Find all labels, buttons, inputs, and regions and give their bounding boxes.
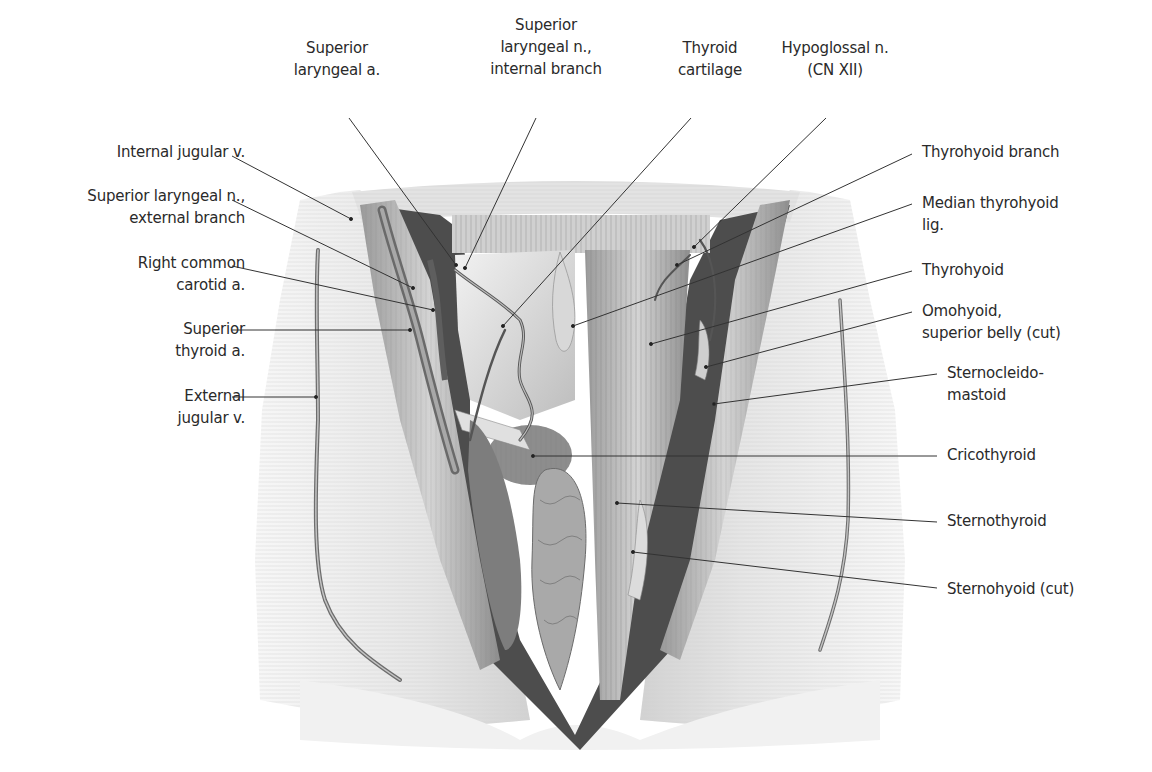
- label-right-common-carotid-a: Right common carotid a.: [138, 252, 245, 296]
- label-cricothyroid: Cricothyroid: [947, 444, 1036, 466]
- label-line: internal branch: [490, 58, 601, 80]
- leader-dot-median-thyrohyoid-lig: [571, 324, 574, 327]
- label-line: Superior: [175, 318, 245, 340]
- label-omohyoid-superior-belly: Omohyoid, superior belly (cut): [922, 300, 1061, 344]
- skin-flaps: [255, 181, 905, 750]
- label-line: Superior laryngeal n.,: [87, 185, 245, 207]
- label-superior-laryngeal-n-internal-branch: Superior laryngeal n., internal branch: [490, 14, 601, 80]
- label-line: cartilage: [678, 59, 742, 81]
- label-line: jugular v.: [178, 407, 245, 429]
- label-line: Omohyoid,: [922, 300, 1061, 322]
- leader-dot-external-jugular-v: [314, 395, 317, 398]
- label-line: Median thyrohyoid: [922, 192, 1058, 214]
- label-superior-laryngeal-n-external-branch: Superior laryngeal n., external branch: [87, 185, 245, 229]
- label-thyroid-cartilage: Thyroid cartilage: [678, 37, 742, 81]
- leader-dot-sternohyoid-cut: [631, 550, 634, 553]
- label-line: (CN XII): [782, 59, 889, 81]
- label-line: Right common: [138, 252, 245, 274]
- label-line: carotid a.: [138, 274, 245, 296]
- label-line: Thyrohyoid: [922, 259, 1004, 281]
- label-line: superior belly (cut): [922, 322, 1061, 344]
- leader-dot-thyroid-cartilage: [501, 324, 504, 327]
- label-line: Sternothyroid: [947, 510, 1047, 532]
- label-line: external branch: [87, 207, 245, 229]
- label-line: mastoid: [947, 384, 1044, 406]
- leader-dot-omohyoid-superior-belly: [704, 365, 707, 368]
- label-external-jugular-v: External jugular v.: [178, 385, 245, 429]
- label-line: External: [178, 385, 245, 407]
- label-hypoglossal-n: Hypoglossal n. (CN XII): [782, 37, 889, 81]
- leader-dot-thyrohyoid-branch: [675, 263, 678, 266]
- label-line: Cricothyroid: [947, 444, 1036, 466]
- leader-dot-superior-thyroid-a: [408, 328, 411, 331]
- label-line: Superior: [490, 14, 601, 36]
- label-line: Internal jugular v.: [117, 141, 245, 163]
- label-sternocleidomastoid: Sternocleido- mastoid: [947, 362, 1044, 406]
- leader-dot-sternothyroid: [615, 501, 618, 504]
- label-line: Sternocleido-: [947, 362, 1044, 384]
- leader-dot-thyrohyoid: [649, 342, 652, 345]
- leader-dot-sternocleidomastoid: [712, 402, 715, 405]
- label-line: thyroid a.: [175, 340, 245, 362]
- leader-dot-hypoglossal-n: [692, 245, 695, 248]
- label-line: laryngeal n.,: [490, 36, 601, 58]
- label-line: Hypoglossal n.: [782, 37, 889, 59]
- leader-dot-superior-laryngeal-a: [454, 263, 457, 266]
- label-line: Sternohyoid (cut): [947, 578, 1074, 600]
- label-line: laryngeal a.: [294, 59, 380, 81]
- leader-line-internal-jugular-v: [232, 156, 351, 219]
- label-line: lig.: [922, 214, 1058, 236]
- label-superior-laryngeal-a: Superior laryngeal a.: [294, 37, 380, 81]
- leader-dot-superior-laryngeal-n-external: [411, 286, 414, 289]
- label-median-thyrohyoid-lig: Median thyrohyoid lig.: [922, 192, 1058, 236]
- label-thyrohyoid-branch: Thyrohyoid branch: [922, 141, 1059, 163]
- label-line: Superior: [294, 37, 380, 59]
- leader-dot-cricothyroid: [531, 454, 534, 457]
- leader-dot-internal-jugular-v: [349, 217, 352, 220]
- label-internal-jugular-v: Internal jugular v.: [117, 141, 245, 163]
- anatomy-figure: Superior laryngeal a. Superior laryngeal…: [0, 0, 1152, 772]
- label-line: Thyroid: [678, 37, 742, 59]
- label-thyrohyoid: Thyrohyoid: [922, 259, 1004, 281]
- leader-dot-right-common-carotid-a: [431, 308, 434, 311]
- label-line: Thyrohyoid branch: [922, 141, 1059, 163]
- label-sternohyoid-cut: Sternohyoid (cut): [947, 578, 1074, 600]
- label-superior-thyroid-a: Superior thyroid a.: [175, 318, 245, 362]
- leader-dot-superior-laryngeal-n-internal: [463, 266, 466, 269]
- label-sternothyroid: Sternothyroid: [947, 510, 1047, 532]
